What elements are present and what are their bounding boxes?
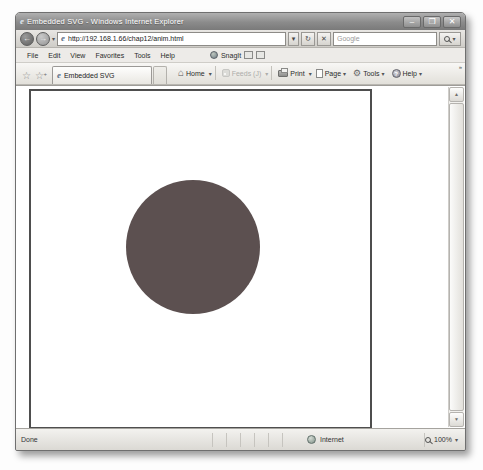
feeds-button: Feeds (J) xyxy=(219,64,265,82)
statusbar-pane xyxy=(226,433,240,447)
address-dropdown-button[interactable]: ▾ xyxy=(288,32,299,46)
scroll-down-button[interactable]: ▼ xyxy=(449,412,464,427)
zoom-caret-icon: ▾ xyxy=(455,436,458,443)
menu-tools[interactable]: Tools xyxy=(129,52,155,59)
home-icon: ⌂ xyxy=(178,68,184,78)
command-bar: ☆ ☆+ e Embedded SVG ⌂ Home ▾ Feeds (J) xyxy=(16,63,465,85)
browser-window: e Embedded SVG - Windows Internet Explor… xyxy=(15,12,466,451)
separator xyxy=(215,66,216,80)
svg-circle xyxy=(126,180,260,314)
command-buttons: ⌂ Home ▾ Feeds (J) ▾ Print ▾ xyxy=(175,62,425,84)
help-icon: ? xyxy=(392,69,401,78)
feeds-dropdown-icon: ▾ xyxy=(265,70,268,77)
search-icon xyxy=(444,36,450,42)
tab-embedded-svg[interactable]: e Embedded SVG xyxy=(52,66,152,84)
address-input[interactable]: e http://192.168.1.66/chap12/anim.html xyxy=(57,32,286,46)
search-input[interactable]: Google xyxy=(333,32,437,46)
gear-icon: ⚙ xyxy=(353,69,361,78)
search-options-caret-icon: ▾ xyxy=(452,35,455,42)
desktop: e Embedded SVG - Windows Internet Explor… xyxy=(0,0,483,470)
help-caret-icon: ▾ xyxy=(419,70,422,77)
back-button[interactable]: ← xyxy=(20,32,34,46)
menu-view[interactable]: View xyxy=(65,52,90,59)
snagit-capture-icon[interactable] xyxy=(244,51,253,59)
add-favorite-star-icon[interactable]: ☆+ xyxy=(33,68,46,84)
snagit-toolbar: SnagIt xyxy=(210,51,265,59)
minimize-button[interactable]: – xyxy=(403,16,421,28)
statusbar-pane xyxy=(240,433,254,447)
menu-edit[interactable]: Edit xyxy=(43,52,65,59)
zone-label: Internet xyxy=(320,436,344,443)
print-dropdown-icon[interactable]: ▾ xyxy=(309,70,312,77)
status-text: Done xyxy=(16,436,212,443)
menu-favorites[interactable]: Favorites xyxy=(90,52,129,59)
zoom-control[interactable]: 100% ▾ xyxy=(424,433,466,447)
menu-bar: File Edit View Favorites Tools Help Snag… xyxy=(16,48,465,63)
zoom-magnifier-icon xyxy=(425,437,431,443)
statusbar-pane xyxy=(268,433,282,447)
history-dropdown-icon[interactable]: ▾ xyxy=(52,35,55,42)
home-button[interactable]: ⌂ Home xyxy=(175,64,208,82)
search-button[interactable]: ▾ xyxy=(439,32,461,46)
page-icon xyxy=(316,69,323,78)
title-bar: e Embedded SVG - Windows Internet Explor… xyxy=(16,13,465,30)
page-icon: e xyxy=(61,34,65,43)
scrollbar-thumb[interactable] xyxy=(449,103,464,411)
window-controls: – ❒ ✕ xyxy=(403,16,461,28)
search-placeholder: Google xyxy=(337,35,360,42)
forward-button[interactable]: → xyxy=(36,32,50,46)
refresh-button[interactable]: ↻ xyxy=(301,32,315,46)
feeds-icon xyxy=(222,69,230,77)
page-viewport: ▲ ▼ xyxy=(16,85,465,428)
close-button[interactable]: ✕ xyxy=(443,16,461,28)
plus-icon: + xyxy=(43,66,47,82)
page-button[interactable]: Page ▾ xyxy=(313,64,349,82)
url-text: http://192.168.1.66/chap12/anim.html xyxy=(68,35,184,42)
statusbar-pane xyxy=(212,433,226,447)
status-bar: Done Internet 100% ▾ xyxy=(16,428,465,450)
tools-button[interactable]: ⚙ Tools ▾ xyxy=(350,64,387,82)
security-zone: Internet xyxy=(282,433,424,447)
snagit-profile-icon[interactable] xyxy=(256,51,265,59)
snagit-icon xyxy=(210,51,218,59)
menu-help[interactable]: Help xyxy=(156,52,180,59)
tools-caret-icon: ▾ xyxy=(381,70,384,77)
separator xyxy=(271,66,272,80)
svg-embed-frame xyxy=(29,89,372,428)
help-button[interactable]: ? Help ▾ xyxy=(389,64,425,82)
address-bar: ← → ▾ e http://192.168.1.66/chap12/anim.… xyxy=(16,30,465,48)
new-tab-stub[interactable] xyxy=(153,66,167,84)
print-button[interactable]: Print xyxy=(275,64,307,82)
page-caret-icon: ▾ xyxy=(343,70,346,77)
ie-logo-icon: e xyxy=(20,17,24,26)
tab-label: Embedded SVG xyxy=(64,72,115,79)
maximize-button[interactable]: ❒ xyxy=(423,16,441,28)
toolbar-overflow-icon[interactable]: » xyxy=(459,64,462,70)
internet-globe-icon xyxy=(307,435,316,444)
stop-button[interactable]: ✕ xyxy=(317,32,331,46)
zoom-level: 100% xyxy=(434,436,452,443)
scroll-up-button[interactable]: ▲ xyxy=(449,87,464,102)
favorites-center-star-icon[interactable]: ☆ xyxy=(20,68,33,84)
printer-icon xyxy=(278,70,288,77)
menu-file[interactable]: File xyxy=(22,52,43,59)
statusbar-pane xyxy=(254,433,268,447)
snagit-label[interactable]: SnagIt xyxy=(221,52,241,59)
vertical-scrollbar[interactable]: ▲ ▼ xyxy=(448,87,464,427)
window-title: Embedded SVG - Windows Internet Explorer xyxy=(27,17,400,26)
tab-page-icon: e xyxy=(57,71,61,80)
home-dropdown-icon[interactable]: ▾ xyxy=(209,70,212,77)
